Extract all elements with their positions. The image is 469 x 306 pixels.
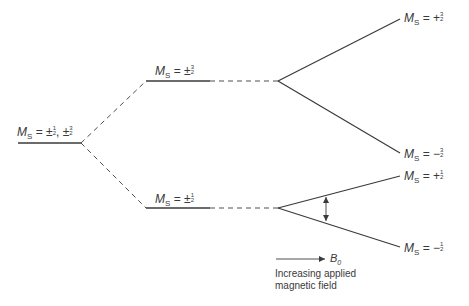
- symbol: M: [404, 241, 414, 255]
- sign: +: [433, 169, 440, 183]
- field-subscript: 0: [337, 259, 341, 266]
- label-zeeman-plus-3-2: MS = +32: [404, 11, 443, 30]
- relation: =: [423, 147, 430, 161]
- energy-level-diagram: [0, 0, 469, 306]
- zeeman-line-plus-1-2: [278, 176, 400, 208]
- fraction: 12: [53, 126, 56, 136]
- relation: =: [423, 169, 430, 183]
- subscript: S: [165, 199, 170, 208]
- subscript: S: [414, 18, 419, 27]
- relation: =: [36, 125, 43, 139]
- sign: ±: [63, 125, 70, 139]
- subscript: S: [27, 132, 32, 141]
- label-initial-level: MS = ±12, ±32: [17, 125, 73, 144]
- sign: ±: [46, 125, 53, 139]
- label-zeeman-minus-1-2: MS = −12: [404, 241, 443, 260]
- sign: −: [433, 147, 440, 161]
- zeeman-line-minus-3-2: [278, 81, 400, 153]
- zeeman-line-plus-3-2: [278, 19, 400, 81]
- symbol: M: [404, 147, 414, 161]
- subscript: S: [414, 176, 419, 185]
- connector-initial-to-lower: [81, 143, 146, 208]
- label-zeeman-minus-3-2: MS = −32: [404, 147, 443, 166]
- symbol: M: [404, 169, 414, 183]
- relation: =: [174, 192, 181, 206]
- sign: −: [433, 241, 440, 255]
- field-caption-line2: magnetic field: [275, 280, 337, 292]
- sign: ±: [184, 192, 191, 206]
- sign: ±: [184, 64, 191, 78]
- symbol: M: [155, 64, 165, 78]
- label-zeeman-plus-1-2: MS = +12: [404, 169, 443, 188]
- fraction: 32: [440, 148, 443, 158]
- field-caption-line1: Increasing applied: [275, 268, 356, 280]
- zeeman-line-minus-1-2: [278, 208, 400, 247]
- symbol: M: [155, 192, 165, 206]
- relation: =: [423, 241, 430, 255]
- fraction: 12: [440, 242, 443, 252]
- fraction: 32: [440, 12, 443, 22]
- subscript: S: [165, 71, 170, 80]
- subscript: S: [414, 248, 419, 257]
- label-zfs-upper: MS = ±32: [155, 64, 194, 83]
- relation: =: [423, 11, 430, 25]
- symbol: M: [404, 11, 414, 25]
- fraction: 12: [191, 193, 194, 203]
- fraction: 32: [191, 65, 194, 75]
- connector-initial-to-upper: [81, 81, 146, 143]
- subscript: S: [414, 154, 419, 163]
- sign: +: [433, 11, 440, 25]
- relation: =: [174, 64, 181, 78]
- fraction: 32: [69, 126, 72, 136]
- symbol: M: [17, 125, 27, 139]
- field-label: B0: [330, 252, 341, 266]
- label-zfs-lower: MS = ±12: [155, 192, 194, 211]
- fraction: 12: [440, 170, 443, 180]
